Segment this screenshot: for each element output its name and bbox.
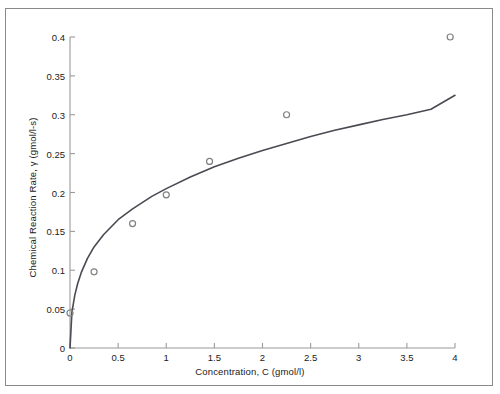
fitted-curve-line <box>70 95 455 348</box>
y-tick-label: 0.4 <box>20 32 65 43</box>
x-tick-label: 0.5 <box>112 352 125 363</box>
y-axis-title: Chemical Reaction Rate, γ (gmol/l-s) <box>27 48 38 348</box>
x-tick-label: 3.5 <box>400 352 413 363</box>
x-tick-label: 0 <box>67 352 72 363</box>
chart-plot-area: 00.050.10.150.20.250.30.350.4 00.511.522… <box>0 0 500 394</box>
axes-group <box>70 37 455 348</box>
data-point-marker <box>284 112 290 118</box>
x-tick-label: 3 <box>356 352 361 363</box>
x-axis-tick-marks <box>70 343 455 348</box>
data-point-marker <box>163 192 169 198</box>
chart-canvas <box>0 0 500 394</box>
data-point-marker <box>130 221 136 227</box>
x-tick-label: 1 <box>164 352 169 363</box>
x-tick-label: 2 <box>260 352 265 363</box>
data-point-marker <box>91 269 97 275</box>
x-tick-label: 1.5 <box>208 352 221 363</box>
x-tick-label: 4 <box>452 352 457 363</box>
x-axis-title: Concentration, C (gmol/l) <box>0 366 500 377</box>
data-point-marker <box>207 158 213 164</box>
x-tick-label: 2.5 <box>304 352 317 363</box>
data-point-marker <box>447 34 453 40</box>
data-point-markers <box>67 34 453 316</box>
